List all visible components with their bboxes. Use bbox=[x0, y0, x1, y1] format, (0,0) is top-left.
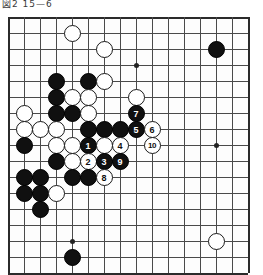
stone-white[interactable] bbox=[32, 121, 49, 138]
stone-black[interactable] bbox=[112, 121, 129, 138]
stone-white[interactable] bbox=[80, 89, 97, 106]
stone-white[interactable] bbox=[96, 73, 113, 90]
stone-black[interactable] bbox=[80, 121, 97, 138]
grid-line-horizontal bbox=[8, 33, 248, 34]
stone-white[interactable] bbox=[16, 105, 33, 122]
stone-black[interactable] bbox=[48, 105, 65, 122]
stone-black-1[interactable]: 1 bbox=[80, 137, 97, 154]
diagram-caption: 図2 15—6 bbox=[2, 0, 53, 10]
stone-black[interactable] bbox=[48, 153, 65, 170]
stone-white[interactable] bbox=[64, 137, 81, 154]
stone-black[interactable] bbox=[96, 121, 113, 138]
stone-black-3[interactable]: 3 bbox=[96, 153, 113, 170]
grid-line-horizontal bbox=[8, 17, 248, 19]
stone-white[interactable] bbox=[80, 105, 97, 122]
grid-line-vertical bbox=[40, 17, 41, 273]
stone-black[interactable] bbox=[48, 89, 65, 106]
stone-black-9[interactable]: 9 bbox=[112, 153, 129, 170]
stone-white[interactable] bbox=[48, 121, 65, 138]
stone-white[interactable] bbox=[96, 137, 113, 154]
stone-white[interactable] bbox=[64, 25, 81, 42]
stone-black[interactable] bbox=[64, 169, 81, 186]
stone-white[interactable] bbox=[48, 185, 65, 202]
go-board[interactable]: 75614102398 bbox=[8, 17, 248, 273]
stone-black[interactable] bbox=[208, 41, 225, 58]
stone-black[interactable] bbox=[32, 185, 49, 202]
grid-line-vertical bbox=[184, 17, 185, 273]
stone-white-4[interactable]: 4 bbox=[112, 137, 129, 154]
grid-line-horizontal bbox=[8, 81, 248, 82]
stone-black[interactable] bbox=[48, 73, 65, 90]
star-point bbox=[214, 143, 219, 148]
stone-black[interactable] bbox=[32, 169, 49, 186]
stone-black[interactable] bbox=[80, 73, 97, 90]
stone-white[interactable] bbox=[64, 153, 81, 170]
grid-line-vertical bbox=[136, 17, 137, 273]
stone-black[interactable] bbox=[16, 185, 33, 202]
stone-white-2[interactable]: 2 bbox=[80, 153, 97, 170]
stone-white-6[interactable]: 6 bbox=[144, 121, 161, 138]
stone-white[interactable] bbox=[96, 41, 113, 58]
grid-line-horizontal bbox=[8, 257, 248, 258]
stone-white[interactable] bbox=[208, 233, 225, 250]
stone-white-8[interactable]: 8 bbox=[96, 169, 113, 186]
stone-black-7[interactable]: 7 bbox=[128, 105, 145, 122]
stone-black[interactable] bbox=[80, 169, 97, 186]
grid-line-vertical bbox=[8, 17, 10, 273]
stone-white[interactable] bbox=[48, 137, 65, 154]
stone-black[interactable] bbox=[64, 105, 81, 122]
stone-black-5[interactable]: 5 bbox=[128, 121, 145, 138]
grid-line-vertical bbox=[248, 17, 250, 273]
grid-line-vertical bbox=[168, 17, 169, 273]
stone-white[interactable] bbox=[16, 121, 33, 138]
star-point bbox=[134, 63, 139, 68]
grid-line-horizontal bbox=[8, 225, 248, 226]
stone-black[interactable] bbox=[16, 137, 33, 154]
stone-black[interactable] bbox=[32, 201, 49, 218]
stone-white-10[interactable]: 10 bbox=[144, 137, 161, 154]
grid-line-horizontal bbox=[8, 65, 248, 66]
stone-white[interactable] bbox=[128, 89, 145, 106]
grid-line-vertical bbox=[200, 17, 201, 273]
stone-white[interactable] bbox=[64, 89, 81, 106]
star-point bbox=[70, 239, 75, 244]
grid-line-vertical bbox=[232, 17, 233, 273]
go-board-container: 75614102398 bbox=[0, 14, 263, 274]
stone-black[interactable] bbox=[16, 169, 33, 186]
stone-black[interactable] bbox=[64, 249, 81, 266]
